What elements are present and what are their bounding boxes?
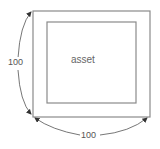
diagram-graphics (0, 0, 160, 149)
width-dimension-arc-right (100, 118, 147, 135)
asset-label: asset (71, 55, 95, 65)
width-dimension-arc-left (35, 118, 80, 135)
width-dimension-label: 100 (80, 131, 97, 140)
height-dimension-arc-lower (18, 70, 31, 114)
height-dimension-label: 100 (8, 57, 23, 68)
height-dimension-arc (18, 12, 31, 58)
diagram-canvas: asset 100 100 (0, 0, 160, 149)
